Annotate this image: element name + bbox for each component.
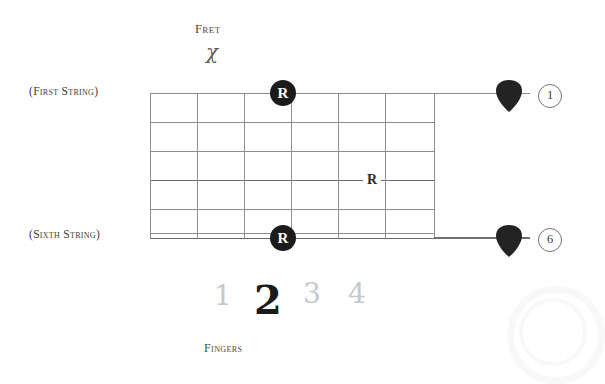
string-line-2 [150, 122, 434, 123]
fret-line-5 [385, 93, 386, 238]
fret-line-4 [338, 93, 339, 238]
fret-line-6 [434, 93, 435, 238]
fret-line-0 [150, 93, 151, 238]
pick-sixth-string-icon [494, 224, 524, 258]
watermark-ring-inner [519, 298, 587, 366]
root-marker-top: R [270, 80, 296, 106]
root-marker-bottom: R [270, 225, 296, 251]
fret-line-3 [291, 93, 292, 238]
watermark [493, 304, 589, 374]
fret-label: Fret [195, 22, 221, 37]
finger-2: 2 [254, 276, 282, 323]
string-line-4 [150, 180, 434, 181]
fretboard-grid [150, 93, 434, 238]
finger-3: 3 [303, 277, 321, 310]
fingers-label: Fingers [204, 341, 242, 356]
fret-symbol: χ [206, 40, 218, 64]
fret-line-1 [197, 93, 198, 238]
string-number-6: 6 [538, 228, 562, 252]
finger-4: 4 [348, 277, 366, 310]
finger-1: 1 [214, 279, 232, 312]
string-line-5 [150, 209, 434, 210]
sixth-string-label: (Sixth String) [29, 228, 100, 240]
pick-first-string-icon [494, 79, 524, 113]
first-string-label: (First String) [29, 85, 98, 97]
root-marker-middle: R [363, 173, 381, 187]
string-number-1: 1 [538, 84, 562, 108]
fret-line-2 [244, 93, 245, 238]
string-line-3 [150, 151, 434, 152]
